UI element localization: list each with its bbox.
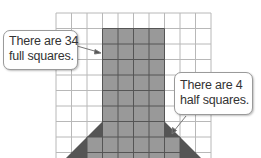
callout-half-squares-line-2: half squares. (180, 93, 247, 108)
callout-half-squares: There are 4 half squares. (174, 72, 253, 115)
callout-half-squares-line-1: There are 4 (180, 78, 247, 93)
arrow-to-half-squares (172, 116, 186, 134)
arrow-to-full-squares (77, 46, 101, 54)
callout-full-squares-line-1: There are 34 (9, 34, 72, 49)
callout-full-squares-line-2: full squares. (9, 49, 72, 64)
callout-full-squares: There are 34 full squares. (3, 30, 78, 70)
